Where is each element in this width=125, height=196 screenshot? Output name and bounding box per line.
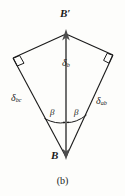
right-angle-left-icon <box>13 56 24 67</box>
edge-right-to-apex <box>66 34 113 55</box>
delta-bc-label: δbc <box>11 93 21 104</box>
beta-right-label: β <box>74 108 78 117</box>
geometry-figure: B′ B δb δbc δab β β (b) <box>0 0 125 196</box>
delta-b-label: δb <box>62 58 70 69</box>
delta-b-subscript: b <box>67 61 70 68</box>
delta-b-vector <box>62 29 70 160</box>
base-vertex-label: B <box>51 150 58 161</box>
arc-tick-right <box>67 121 69 123</box>
beta-left-label: β <box>50 108 54 117</box>
delta-ab-subscript: ab <box>101 99 107 106</box>
figure-caption: (b) <box>0 175 125 186</box>
right-angle-right-icon <box>104 53 113 63</box>
edge-apex-to-left <box>13 34 66 58</box>
delta-ab-label: δab <box>96 96 107 107</box>
arc-tick-left <box>63 122 65 124</box>
edge-left-to-base <box>13 58 66 157</box>
apex-vertex-label: B′ <box>60 8 70 19</box>
delta-bc-subscript: bc <box>16 96 22 103</box>
